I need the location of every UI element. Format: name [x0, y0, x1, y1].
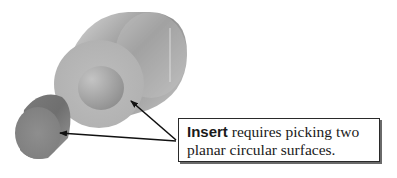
callout-line-2: planar circular surfaces. [187, 141, 373, 159]
insert-keyword: Insert [187, 123, 228, 140]
hole-face [78, 66, 124, 110]
callout-line-1: Insert requires picking two [187, 123, 373, 141]
arrow-to-small-cylinder-face [60, 133, 176, 141]
callout-line-1-text: requires picking two [228, 123, 359, 140]
small-cylinder [15, 95, 70, 159]
small-cylinder-front-face [15, 107, 61, 159]
callout-box: Insert requires picking two planar circu… [178, 118, 380, 162]
large-cylinder [54, 12, 187, 128]
